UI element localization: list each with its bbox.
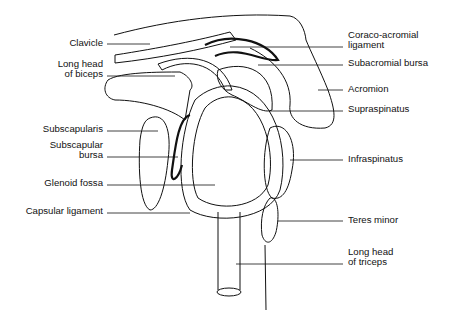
triceps-shape	[218, 212, 240, 290]
triceps-cut-end	[217, 288, 241, 296]
coracoid-shape	[105, 72, 192, 120]
label-supraspinatus: Supraspinatus	[348, 104, 409, 114]
label-subscapular-bursa: Subscapularbursa	[50, 140, 103, 160]
label-glenoid-fossa: Glenoid fossa	[44, 178, 103, 188]
clavicle-shape	[115, 32, 236, 63]
label-clavicle: Clavicle	[69, 38, 103, 48]
label-infraspinatus: Infraspinatus	[348, 154, 403, 164]
infraspinatus-shape	[264, 126, 293, 198]
skin-contour	[114, 15, 290, 35]
subacromial-bursa-shape	[205, 39, 278, 60]
label-acromion: Acromion	[348, 84, 389, 94]
label-subacromial-bursa: Subacromial bursa	[348, 58, 428, 68]
label-subscapularis: Subscapularis	[43, 124, 103, 134]
label-coraco-acromial-ligament: Coraco-acromialligament	[348, 30, 418, 50]
label-capsular-ligament: Capsular ligament	[26, 206, 103, 216]
label-long-head-biceps: Long headof biceps	[58, 59, 103, 79]
capsular-ligament-shape	[181, 86, 283, 218]
glenoid-fossa-shape	[192, 97, 270, 206]
subscapular-bursa-shape	[172, 115, 190, 179]
label-long-head-triceps: Long headof triceps	[348, 247, 393, 267]
label-teres-minor: Teres minor	[348, 215, 398, 225]
